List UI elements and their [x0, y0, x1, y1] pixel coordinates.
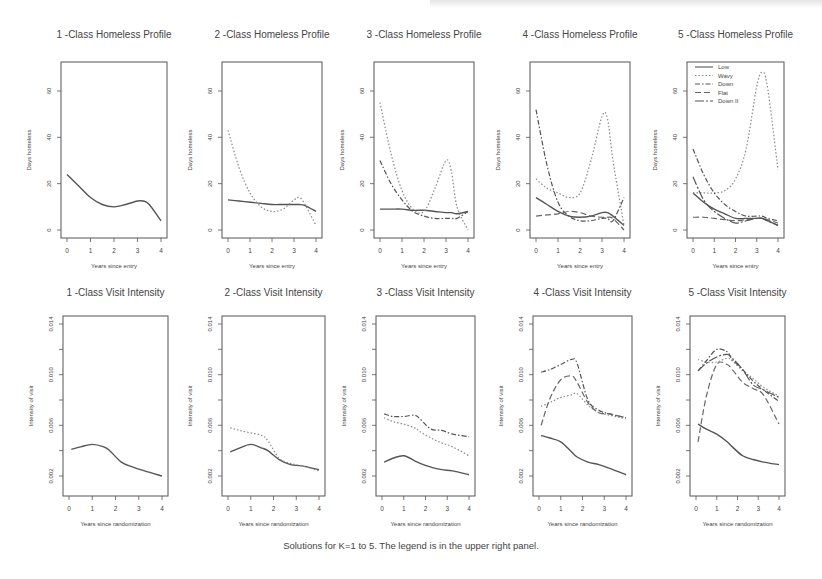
- x-tick-label: 2: [734, 247, 738, 254]
- x-axis-label: Years since entry: [91, 263, 137, 269]
- y-tick-label: 40: [359, 133, 365, 140]
- series-line-down: [693, 149, 778, 221]
- series-line-low: [384, 456, 469, 475]
- panel-7: 2 -Class Visit Intensity01234Years since…: [187, 287, 325, 527]
- y-axis-label: Days homeless: [187, 129, 193, 170]
- y-tick-label: 0.010: [518, 366, 524, 382]
- x-tick-label: 0: [691, 247, 695, 254]
- x-axis-label: Years since entry: [557, 263, 603, 269]
- x-tick-label: 3: [444, 247, 448, 254]
- y-tick-label: 0.014: [518, 316, 524, 332]
- panel-4: 4 -Class Homeless Profile01234Years sinc…: [495, 29, 638, 269]
- y-tick-label: 40: [515, 133, 521, 140]
- x-tick-label: 1: [89, 247, 93, 254]
- series-line-wavy: [541, 393, 626, 419]
- panel-5: 5 -Class Homeless Profile01234Years sinc…: [652, 29, 793, 269]
- x-tick-label: 1: [712, 247, 716, 254]
- y-tick-label: 60: [515, 87, 521, 94]
- y-axis-label: Intensity of visit: [341, 385, 347, 426]
- y-tick-label: 0.006: [675, 417, 681, 433]
- series-line-low: [67, 174, 161, 220]
- y-tick-label: 0: [46, 228, 52, 232]
- series-line-wavy: [384, 418, 469, 456]
- x-tick-label: 3: [600, 247, 604, 254]
- x-tick-label: 2: [422, 247, 426, 254]
- series-line-low: [693, 193, 778, 225]
- plot-frame: [61, 62, 167, 238]
- plot-frame: [530, 62, 630, 238]
- x-tick-label: 3: [756, 505, 760, 512]
- y-tick-label: 60: [46, 87, 52, 94]
- series-line-wavy: [693, 72, 778, 193]
- x-tick-label: 0: [694, 505, 698, 512]
- y-tick-label: 0.014: [48, 316, 54, 332]
- y-tick-label: 0.002: [48, 468, 54, 484]
- figure-canvas: 1 -Class Homeless Profile01234Years sinc…: [0, 0, 822, 579]
- plot-frame: [533, 316, 632, 496]
- x-tick-label: 2: [578, 247, 582, 254]
- y-tick-label: 0.014: [207, 316, 213, 332]
- x-axis-label: Years since entry: [401, 263, 447, 269]
- x-tick-label: 0: [65, 247, 69, 254]
- x-tick-label: 1: [249, 505, 253, 512]
- series-line-down: [698, 349, 779, 401]
- x-tick-label: 2: [424, 505, 428, 512]
- y-tick-label: 0: [515, 228, 521, 232]
- panel-title: 3 -Class Homeless Profile: [366, 29, 481, 40]
- y-axis-label: Intensity of visit: [187, 385, 193, 426]
- x-tick-label: 0: [537, 505, 541, 512]
- legend-label: Down: [718, 81, 733, 87]
- y-tick-label: 20: [207, 180, 213, 187]
- y-tick-label: 20: [515, 180, 521, 187]
- x-tick-label: 3: [602, 505, 606, 512]
- panel-title: 3 -Class Visit Intensity: [376, 287, 474, 298]
- series-line-wavy: [536, 112, 624, 225]
- y-tick-label: 0.010: [361, 366, 367, 382]
- x-tick-label: 1: [556, 247, 560, 254]
- x-tick-label: 1: [248, 247, 252, 254]
- legend-label: Wavy: [718, 73, 733, 79]
- y-tick-label: 60: [359, 87, 365, 94]
- panel-1: 1 -Class Homeless Profile01234Years sinc…: [26, 29, 172, 269]
- plot-frame: [376, 316, 475, 496]
- series-line-down: [536, 110, 624, 222]
- plot-frame: [222, 316, 325, 496]
- y-axis-label: Intensity of visit: [28, 385, 34, 426]
- x-tick-label: 2: [112, 247, 116, 254]
- x-tick-label: 2: [581, 505, 585, 512]
- y-tick-label: 0.006: [207, 417, 213, 433]
- x-tick-label: 4: [776, 247, 780, 254]
- y-axis-label: Days homeless: [26, 129, 32, 170]
- y-tick-label: 40: [207, 133, 213, 140]
- series-line-flat: [698, 362, 779, 442]
- x-tick-label: 4: [317, 505, 321, 512]
- x-tick-label: 4: [622, 247, 626, 254]
- x-tick-label: 3: [137, 505, 141, 512]
- x-tick-label: 4: [467, 505, 471, 512]
- y-axis-label: Intensity of visit: [498, 385, 504, 426]
- legend-label: Low: [718, 64, 730, 70]
- x-tick-label: 4: [466, 247, 470, 254]
- x-tick-label: 3: [292, 247, 296, 254]
- plot-frame: [63, 316, 168, 496]
- x-tick-label: 3: [445, 505, 449, 512]
- x-axis-label: Years since randomization: [547, 521, 617, 527]
- y-tick-label: 0: [207, 228, 213, 232]
- y-tick-label: 60: [672, 87, 678, 94]
- series-line-low: [541, 435, 626, 474]
- panel-title: 4 -Class Visit Intensity: [533, 287, 631, 298]
- x-tick-label: 2: [270, 247, 274, 254]
- legend-label: Down II: [718, 98, 739, 104]
- figure-caption: Solutions for K=1 to 5. The legend is in…: [0, 540, 822, 551]
- y-axis-label: Days homeless: [652, 129, 658, 170]
- y-tick-label: 40: [672, 133, 678, 140]
- panel-6: 1 -Class Visit Intensity01234Years since…: [28, 287, 168, 527]
- x-tick-label: 2: [114, 505, 118, 512]
- panel-2: 2 -Class Homeless Profile01234Years sinc…: [187, 29, 330, 269]
- x-tick-label: 3: [136, 247, 140, 254]
- panel-3: 3 -Class Homeless Profile01234Years sinc…: [339, 29, 482, 269]
- x-axis-label: Years since randomization: [702, 521, 772, 527]
- y-axis-label: Days homeless: [339, 129, 345, 170]
- y-tick-label: 60: [207, 87, 213, 94]
- y-tick-label: 0.006: [361, 417, 367, 433]
